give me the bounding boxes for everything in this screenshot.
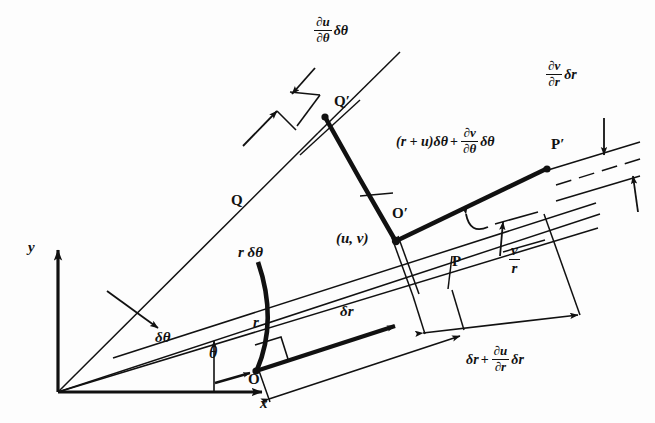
hoop-stretch-expression: (r + u)δθ + ∂v ∂θ δθ: [396, 127, 495, 157]
point-label-P: P: [452, 254, 461, 269]
radial-stretch-dimension: [423, 315, 578, 333]
hoop-stretch-tail: δθ: [480, 135, 494, 149]
hoop-leader-line: [360, 193, 393, 196]
delta-theta-label: δθ: [155, 330, 170, 345]
witness-line-O-prime-ext: [413, 296, 425, 334]
du-dtheta-pointers: [243, 68, 320, 146]
p-prime-pointer: [466, 214, 488, 229]
dv-dr-reference-lower: [556, 176, 640, 201]
v-over-r-arrow: [500, 222, 503, 256]
du-dtheta-denominator: ∂θ: [314, 31, 332, 46]
v-over-r-numerator: v: [509, 242, 520, 260]
hoop-expression-leader: [360, 193, 393, 196]
point-label-Q: Q: [231, 193, 243, 208]
du-dtheta-expression: ∂u ∂θ δθ: [313, 14, 348, 46]
dv-dr-tail: δr: [564, 68, 577, 82]
hoop-stretch-operator: +: [450, 135, 458, 149]
displacement-label: (u, v): [336, 231, 369, 246]
dv-dr-dimension: [548, 118, 643, 212]
witness-line-P: [452, 290, 464, 330]
arc-length-label: r δθ: [238, 245, 263, 260]
x-axis-label: x: [260, 396, 268, 411]
radial-stretch-denominator: ∂r: [492, 360, 510, 375]
point-dot-Q-prime: [321, 113, 328, 120]
radial-stretch-fraction: ∂u ∂r: [492, 344, 510, 374]
hoop-stretch-denominator: ∂θ: [461, 142, 478, 157]
radial-stretch-expression: δr + ∂u ∂r δr: [466, 345, 524, 375]
delta-theta-arrow: [107, 291, 158, 328]
point-label-O-prime: O′: [392, 206, 408, 221]
delta-r-dimension: [269, 336, 460, 399]
delta-theta-pointer: [107, 291, 158, 328]
point-label-Q-prime: Q′: [334, 94, 350, 109]
dv-dr-numerator: ∂v: [546, 59, 562, 75]
radius-arrow-to-O: [215, 373, 250, 383]
dv-dr-fraction: ∂v ∂r: [546, 59, 562, 89]
witness-line-P-prime: [544, 214, 580, 315]
delta-r-dim-line: [269, 336, 460, 399]
du-dtheta-tail: δθ: [334, 24, 348, 38]
radial-stretch-dim-line: [423, 315, 578, 333]
y-axis-label: y: [28, 240, 35, 255]
undeformed-element: [215, 262, 395, 383]
theta-label: θ: [209, 345, 217, 361]
hoop-stretch-fraction: ∂v ∂θ: [461, 126, 478, 156]
du-dtheta-numerator: ∂u: [314, 15, 332, 31]
dv-dr-denominator: ∂r: [546, 75, 562, 90]
curve-O-prime-Q-prime: [325, 117, 395, 240]
radial-rays: [58, 52, 600, 392]
ray-upper-extension: [318, 52, 400, 133]
v-over-r-fraction: v r: [509, 242, 520, 277]
radial-stretch-numerator: ∂u: [492, 344, 510, 360]
coordinate-axes: [58, 250, 262, 392]
dv-dr-arrow-lower: [633, 176, 638, 212]
v-over-r-expression: v r: [508, 243, 521, 278]
v-over-r-denominator: r: [509, 260, 520, 277]
du-dtheta-leader-diagonal: [297, 95, 320, 126]
point-label-P-prime: P′: [551, 137, 565, 152]
segment-O-prime-P-prime: [396, 169, 546, 241]
hoop-stretch-lead: (r + u)δθ: [396, 135, 448, 149]
hoop-stretch-numerator: ∂v: [461, 126, 478, 142]
polar-strain-figure: y x θ O P Q O′ P′ Q′ (u, v) r r δθ δθ δr…: [0, 0, 655, 423]
displacement-direction-tick: [277, 111, 296, 130]
du-dtheta-arrow: [292, 68, 315, 94]
dashed-reference-line: [556, 158, 643, 185]
radius-label: r: [253, 315, 259, 330]
deformed-element: [300, 100, 551, 245]
witness-line-vr-top: [495, 212, 538, 224]
radial-stretch-tail: δr: [511, 353, 524, 367]
reference-line-at-Q-prime: [300, 100, 360, 155]
v-over-r-dimension: [500, 222, 503, 256]
dv-dr-expression: ∂v ∂r δr: [545, 58, 577, 90]
p-prime-curved-arrow: [466, 214, 488, 229]
point-label-O: O: [248, 372, 260, 387]
du-dtheta-fraction: ∂u ∂θ: [314, 15, 332, 45]
delta-r-label: δr: [340, 304, 354, 319]
displacement-direction-arrow: [243, 111, 277, 146]
ray-through-o-prime: [113, 203, 596, 358]
radial-stretch-lead: δr: [466, 353, 479, 367]
dimension-witness-lines: [258, 212, 580, 402]
radial-stretch-operator: +: [481, 353, 489, 367]
